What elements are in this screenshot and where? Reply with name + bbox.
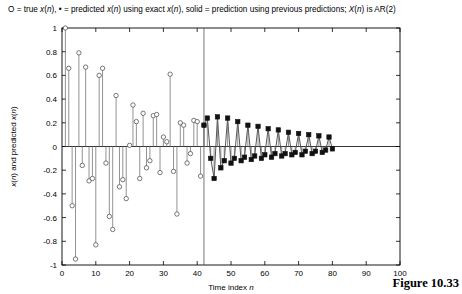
filled-square-marker (242, 155, 246, 159)
open-circle-marker (121, 177, 125, 181)
y-tick-label: 0.6 (46, 71, 58, 80)
open-circle-marker (198, 174, 202, 178)
y-tick-label: -1 (50, 261, 58, 270)
filled-square-marker (246, 123, 250, 127)
open-circle-marker (161, 135, 165, 139)
open-circle-marker (63, 26, 67, 30)
filled-square-marker (296, 131, 300, 135)
filled-square-marker (273, 151, 277, 155)
filled-square-marker (209, 156, 213, 160)
open-circle-marker (188, 151, 192, 155)
x-tick-label: 70 (294, 269, 303, 278)
x-tick-label: 40 (193, 269, 202, 278)
y-tick-label: -0.8 (43, 237, 57, 246)
series-recursive-prediction (202, 115, 335, 181)
open-circle-marker (114, 93, 118, 97)
open-circle-marker (104, 161, 108, 165)
open-circle-marker (107, 214, 111, 218)
y-tick-label: 1 (53, 24, 58, 33)
open-circle-marker (148, 159, 152, 163)
open-circle-marker (100, 66, 104, 70)
open-circle-marker (94, 243, 98, 247)
filled-square-marker (215, 115, 219, 119)
open-circle-marker (77, 51, 81, 55)
x-tick-label: 90 (362, 269, 371, 278)
filled-square-marker (212, 176, 216, 180)
filled-square-marker (263, 153, 267, 157)
open-circle-marker (80, 163, 84, 167)
x-tick-label: 80 (328, 269, 337, 278)
y-tick-label: -0.4 (43, 190, 57, 199)
open-circle-marker (134, 119, 138, 123)
x-tick-label: 50 (227, 269, 236, 278)
filled-square-marker (317, 134, 321, 138)
open-circle-marker (90, 176, 94, 180)
x-tick-label: 10 (91, 269, 100, 278)
y-tick-label: -0.2 (43, 166, 57, 175)
x-tick-label: 20 (125, 269, 134, 278)
open-circle-marker (67, 66, 71, 70)
open-circle-marker (141, 111, 145, 115)
y-tick-label: -0.6 (43, 214, 57, 223)
filled-square-marker (286, 130, 290, 134)
figure-container: O = true x(n), • = predicted x(n) using … (0, 0, 462, 294)
open-circle-marker (171, 169, 175, 173)
filled-square-marker (293, 150, 297, 154)
filled-square-marker (202, 123, 206, 127)
stem-plot-chart: 0102030405060708090100-1-0.8-0.6-0.4-0.2… (0, 0, 462, 294)
filled-square-marker (283, 151, 287, 155)
filled-square-marker (225, 116, 229, 120)
filled-square-marker (303, 149, 307, 153)
filled-square-marker (252, 154, 256, 158)
open-circle-marker (124, 196, 128, 200)
figure-number-label: Figure 10.33 (393, 276, 459, 291)
filled-square-marker (327, 135, 331, 139)
open-circle-marker (185, 161, 189, 165)
open-circle-marker (117, 185, 121, 189)
open-circle-marker (158, 170, 162, 174)
filled-square-marker (229, 161, 233, 165)
open-circle-marker (168, 72, 172, 76)
filled-square-marker (266, 127, 270, 131)
open-circle-marker (181, 123, 185, 127)
open-circle-marker (154, 112, 158, 116)
filled-square-marker (205, 116, 209, 120)
open-circle-marker (195, 119, 199, 123)
open-circle-marker (175, 212, 179, 216)
open-circle-marker (165, 140, 169, 144)
filled-square-marker (307, 132, 311, 136)
open-circle-marker (111, 227, 115, 231)
open-circle-marker (131, 103, 135, 107)
filled-square-marker (330, 147, 334, 151)
y-axis-title: x(n) and predicted x(n) (9, 106, 18, 188)
open-circle-marker (83, 65, 87, 69)
filled-square-marker (236, 119, 240, 123)
open-circle-marker (144, 166, 148, 170)
open-circle-marker (73, 257, 77, 261)
y-tick-label: 0.8 (46, 48, 58, 57)
series-true-xn (63, 26, 206, 261)
y-tick-label: 0.2 (46, 119, 58, 128)
filled-square-marker (276, 128, 280, 132)
x-tick-label: 30 (159, 269, 168, 278)
y-tick-label: 0.4 (46, 95, 58, 104)
x-axis-title: Time index n (208, 283, 254, 292)
filled-square-marker (313, 149, 317, 153)
filled-square-marker (219, 166, 223, 170)
filled-square-marker (256, 124, 260, 128)
open-circle-marker (127, 143, 131, 147)
open-circle-marker (138, 176, 142, 180)
y-tick-label: 0 (53, 143, 58, 152)
filled-square-marker (222, 159, 226, 163)
filled-square-marker (323, 148, 327, 152)
open-circle-marker (70, 204, 74, 208)
open-circle-marker (97, 73, 101, 77)
filled-square-marker (232, 156, 236, 160)
x-tick-label: 0 (60, 269, 65, 278)
x-tick-label: 60 (260, 269, 269, 278)
